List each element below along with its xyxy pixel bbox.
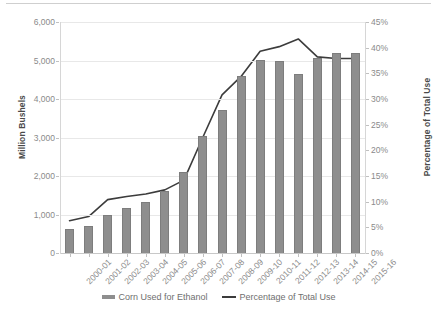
y-axis-right-tick-mark: [366, 202, 369, 203]
gridline: [60, 22, 365, 23]
gridline: [60, 253, 365, 254]
y-axis-left-tick-label: 2,000: [3, 171, 55, 181]
y-axis-left-tick-mark: [56, 138, 59, 139]
y-axis-right-tick-label: 15%: [371, 171, 411, 181]
legend-label-bar: Corn Used for Ethanol: [119, 292, 208, 302]
x-axis-tick-mark: [165, 254, 166, 257]
y-axis-left-tick-label: 5,000: [3, 56, 55, 66]
y-axis-right-tick-mark: [366, 99, 369, 100]
y-axis-right-tick-label: 30%: [371, 94, 411, 104]
x-axis-tick-mark: [70, 254, 71, 257]
y-axis-right-tick-label: 35%: [371, 68, 411, 78]
bar: [160, 191, 169, 253]
x-axis-tick-mark: [298, 254, 299, 257]
bar: [218, 110, 227, 253]
legend-item-line: Percentage of Total Use: [222, 292, 336, 302]
legend-label-line: Percentage of Total Use: [240, 292, 336, 302]
x-axis-tick-mark: [241, 254, 242, 257]
y-axis-right-tick-label: 40%: [371, 43, 411, 53]
y-axis-right-line: [365, 22, 366, 254]
bar: [256, 60, 265, 253]
y-axis-right-tick-label: 25%: [371, 120, 411, 130]
y-axis-left-tick-label: 3,000: [3, 133, 55, 143]
bar: [351, 53, 360, 253]
y-axis-left-tick-mark: [56, 99, 59, 100]
y-axis-left-tick-mark: [56, 61, 59, 62]
plot-area: [60, 22, 365, 253]
y-axis-right-tick-mark: [366, 150, 369, 151]
x-axis-tick-mark: [203, 254, 204, 257]
legend-item-bar: Corn Used for Ethanol: [102, 292, 208, 302]
bar: [332, 53, 341, 253]
y-axis-left-tick-label: 1,000: [3, 210, 55, 220]
x-axis-tick-mark: [260, 254, 261, 257]
x-axis-tick-mark: [146, 254, 147, 257]
bar: [237, 76, 246, 253]
y-axis-right-tick-mark: [366, 176, 369, 177]
bar: [179, 172, 188, 254]
y-axis-right-tick-mark: [366, 227, 369, 228]
y-axis-right-tick-mark: [366, 253, 369, 254]
x-axis-tick-mark: [336, 254, 337, 257]
y-axis-right-tick-label: 45%: [371, 17, 411, 27]
y-axis-right-tick-label: 10%: [371, 197, 411, 207]
top-divider: [6, 3, 431, 4]
x-axis-tick-mark: [127, 254, 128, 257]
bar: [103, 215, 112, 253]
x-axis-tick-mark: [89, 254, 90, 257]
y-axis-left-tick-label: 4,000: [3, 94, 55, 104]
bar: [294, 74, 303, 253]
y-axis-right-tick-label: 5%: [371, 222, 411, 232]
bar: [122, 208, 131, 253]
chart-legend: Corn Used for Ethanol Percentage of Tota…: [0, 292, 437, 302]
x-axis-tick-mark: [184, 254, 185, 257]
bar: [313, 58, 322, 253]
y-axis-right-tick-mark: [366, 73, 369, 74]
line-swatch-icon: [222, 296, 236, 298]
y-axis-left-tick-label: 0: [3, 248, 55, 258]
x-axis-tick-mark: [355, 254, 356, 257]
y-axis-right-tick-mark: [366, 48, 369, 49]
bar: [275, 61, 284, 254]
y-axis-left-tick-label: 6,000: [3, 17, 55, 27]
bar: [198, 136, 207, 253]
bar: [65, 229, 74, 253]
y-axis-left-title: Million Bushels: [17, 72, 27, 182]
y-axis-right-tick-mark: [366, 125, 369, 126]
y-axis-left-line: [60, 22, 61, 254]
x-axis-tick-mark: [279, 254, 280, 257]
y-axis-left-tick-mark: [56, 253, 59, 254]
bar-swatch-icon: [102, 295, 115, 299]
x-axis-tick-mark: [108, 254, 109, 257]
y-axis-right-tick-label: 20%: [371, 145, 411, 155]
chart-container: Million Bushels Percentage of Total Use …: [0, 0, 437, 314]
x-axis-tick-mark: [317, 254, 318, 257]
y-axis-left-tick-mark: [56, 22, 59, 23]
x-axis-tick-mark: [222, 254, 223, 257]
y-axis-left-tick-mark: [56, 176, 59, 177]
bar: [141, 202, 150, 253]
y-axis-left-tick-mark: [56, 215, 59, 216]
bar: [84, 226, 93, 253]
y-axis-right-title: Percentage of Total Use: [422, 62, 432, 192]
y-axis-right-tick-mark: [366, 22, 369, 23]
